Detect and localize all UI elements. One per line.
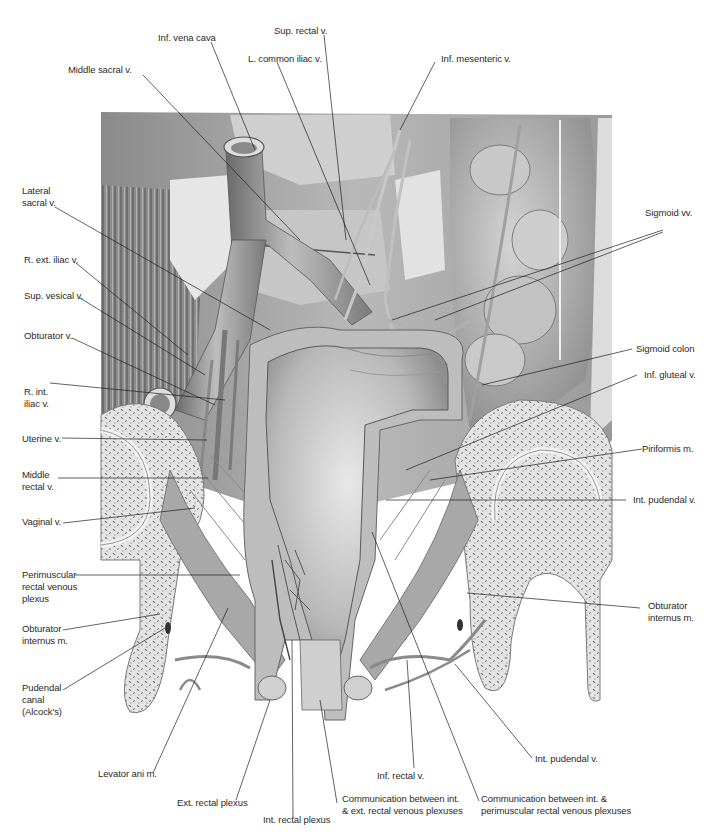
- label-lateral-sacral-v: Lateral sacral v.: [22, 185, 56, 209]
- label-levator-ani-m: Levator ani m.: [98, 768, 157, 780]
- label-inf-rectal-v: Inf. rectal v.: [377, 770, 424, 782]
- label-inf-mesenteric-v: Inf. mesenteric v.: [441, 53, 511, 65]
- label-sup-vesical-v: Sup. vesical v.: [24, 290, 83, 302]
- label-int-pudendal-v-right: Int. pudendal v.: [633, 494, 696, 506]
- label-piriformis-m: Piriformis m.: [642, 443, 693, 455]
- label-middle-sacral-v: Middle sacral v.: [68, 64, 132, 76]
- label-r-ext-iliac-v: R. ext. iliac v.: [24, 254, 78, 266]
- label-obturator-internus-m-right: Obturator internus m.: [648, 600, 694, 624]
- label-uterine-v: Uterine v.: [22, 433, 61, 445]
- label-comm-int-ext: Communication between int. & ext. rectal…: [342, 793, 463, 817]
- label-obturator-v: Obturator v.: [24, 330, 72, 342]
- label-ext-rectal-plexus: Ext. rectal plexus: [177, 797, 248, 809]
- label-perimuscular-plexus: Perimuscular rectal venous plexus: [22, 569, 77, 605]
- label-r-int-iliac-v: R. int. iliac v.: [24, 386, 49, 410]
- label-vaginal-v: Vaginal v.: [22, 516, 61, 528]
- pelvis-illustration: [0, 0, 714, 840]
- label-comm-int-perimuscular: Communication between int. & perimuscula…: [481, 793, 631, 817]
- label-sigmoid-colon: Sigmoid colon: [636, 343, 694, 355]
- label-obturator-internus-m-left: Obturator internus m.: [22, 623, 68, 647]
- label-sigmoid-vv: Sigmoid vv.: [645, 207, 692, 219]
- label-int-pudendal-v-bottom: Int. pudendal v.: [535, 753, 598, 765]
- anatomical-figure: Inf. vena cava Sup. rectal v. L. common …: [0, 0, 714, 840]
- label-middle-rectal-v: Middle rectal v.: [22, 469, 54, 493]
- label-inf-vena-cava: Inf. vena cava: [158, 32, 216, 44]
- label-l-common-iliac-v: L. common iliac v.: [248, 53, 322, 65]
- label-int-rectal-plexus: Int. rectal plexus: [263, 814, 330, 826]
- label-sup-rectal-v: Sup. rectal v.: [274, 25, 327, 37]
- label-inf-gluteal-v: Inf. gluteal v.: [644, 369, 696, 381]
- label-pudendal-canal: Pudendal canal (Alcock's): [22, 682, 62, 718]
